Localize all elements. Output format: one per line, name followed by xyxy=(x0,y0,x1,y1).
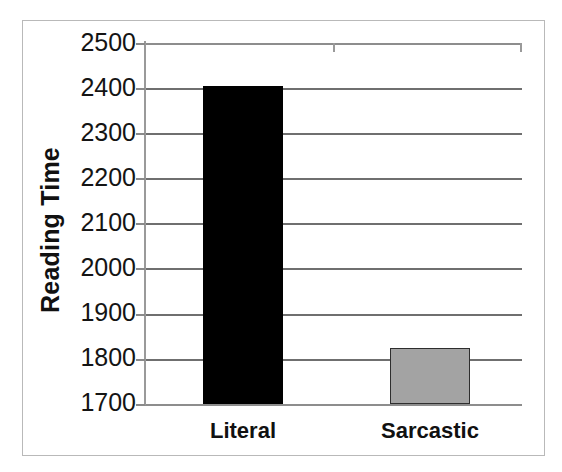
bar-sarcastic[interactable] xyxy=(390,348,470,404)
y-axis-tick-labels: 2500 2400 2300 2200 2100 2000 1900 1800 … xyxy=(60,43,136,404)
y-tick-label-1900: 1900 xyxy=(80,300,136,325)
y-tick-mark-2100 xyxy=(136,223,145,225)
y-tick-label-2000: 2000 xyxy=(80,255,136,280)
y-tick-mark-2000 xyxy=(136,268,145,270)
y-tick-mark-1700 xyxy=(136,404,145,406)
y-tick-label-2500: 2500 xyxy=(80,30,136,55)
plot-area xyxy=(145,43,522,404)
y-tick-label-1800: 1800 xyxy=(80,345,136,370)
y-tick-label-1700: 1700 xyxy=(80,390,136,415)
gridline-1900 xyxy=(145,314,522,316)
y-tick-mark-1900 xyxy=(136,314,145,316)
gridline-2400 xyxy=(145,88,522,90)
gridline-2000 xyxy=(145,268,522,270)
y-tick-label-2200: 2200 xyxy=(80,165,136,190)
gridline-2100 xyxy=(145,223,522,225)
bar-literal[interactable] xyxy=(203,86,283,404)
x-axis-end-tick xyxy=(520,43,522,52)
y-tick-mark-2300 xyxy=(136,133,145,135)
y-tick-mark-2200 xyxy=(136,178,145,180)
x-category-separator-tick xyxy=(333,43,335,52)
x-axis-category-labels: Literal Sarcastic xyxy=(145,418,522,452)
x-category-label-sarcastic: Sarcastic xyxy=(360,418,500,443)
y-tick-label-2300: 2300 xyxy=(80,120,136,145)
gridline-2300 xyxy=(145,133,522,135)
gridline-baseline-1700 xyxy=(145,404,522,406)
y-tick-label-2100: 2100 xyxy=(80,210,136,235)
y-tick-mark-1800 xyxy=(136,359,145,361)
y-tick-mark-2400 xyxy=(136,88,145,90)
x-category-label-literal: Literal xyxy=(173,418,313,443)
reading-time-bar-chart: Reading Time 2500 2400 2300 2200 2100 20… xyxy=(0,0,562,472)
y-tick-mark-2500 xyxy=(136,43,145,45)
y-tick-label-2400: 2400 xyxy=(80,75,136,100)
gridline-2200 xyxy=(145,178,522,180)
